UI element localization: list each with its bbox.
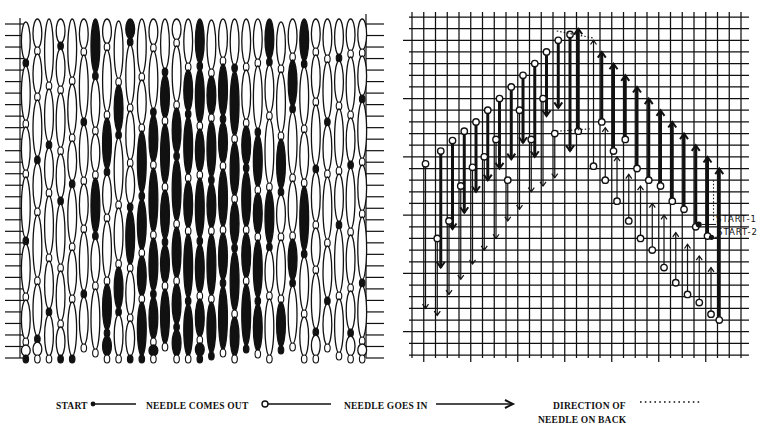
needle-out-circle-icon [681, 206, 687, 212]
stitch-knot [243, 345, 249, 353]
open-stitch [335, 228, 344, 293]
open-stitch [323, 62, 332, 119]
open-stitch [323, 177, 332, 240]
open-stitch [33, 215, 42, 278]
open-stitch [33, 342, 42, 356]
needle-out-circle-icon [422, 161, 428, 167]
open-stitch [277, 240, 286, 296]
open-stitch [335, 109, 344, 168]
stitch-ascending [673, 233, 679, 286]
open-stitch [300, 132, 309, 180]
stitch-descending [484, 107, 492, 180]
filled-stitch [230, 317, 239, 356]
open-stitch [149, 51, 158, 109]
filled-stitch [126, 19, 135, 39]
open-stitch [114, 208, 123, 261]
open-stitch [126, 321, 135, 356]
open-stitch [56, 204, 65, 265]
filled-stitch [253, 135, 262, 187]
open-stitch [265, 119, 274, 184]
open-stitch [242, 19, 251, 64]
filled-stitch [230, 202, 239, 245]
open-stitch [103, 175, 112, 215]
stitch-knot [220, 349, 226, 357]
open-stitch [126, 111, 135, 160]
filled-stitch [230, 71, 239, 136]
open-stitch [56, 327, 65, 356]
open-stitch [311, 335, 320, 356]
filled-stitch [184, 304, 193, 356]
open-stitch [253, 66, 262, 129]
filled-stitch [161, 245, 170, 283]
open-stitch [79, 19, 88, 49]
needle-out-circle-icon [610, 148, 616, 154]
stitch-ascending [602, 128, 608, 184]
open-stitch [358, 56, 367, 96]
filled-stitch [184, 70, 193, 111]
open-stitch [45, 315, 54, 356]
open-stitch [277, 195, 286, 234]
filled-stitch [242, 284, 251, 346]
stitch-knot [23, 355, 29, 363]
needle-out-circle-icon [657, 183, 663, 189]
legend-needle-in: NEEDLE GOES IN [344, 400, 428, 411]
stitch-knot [290, 343, 296, 351]
filled-stitch [219, 122, 228, 163]
open-stitch [346, 118, 355, 162]
open-stitch [311, 19, 320, 49]
filled-stitch [219, 169, 228, 227]
open-stitch [56, 19, 65, 43]
open-stitch [265, 250, 274, 293]
open-stitch [79, 184, 88, 226]
filled-stitch [172, 159, 181, 221]
open-stitch [103, 50, 112, 112]
open-stitch [21, 345, 30, 356]
open-stitch [103, 221, 112, 278]
filled-stitch [265, 190, 274, 244]
filled-stitch [172, 108, 181, 153]
open-stitch [288, 19, 297, 54]
needle-out-circle-icon [661, 264, 667, 270]
stitch-ascending [637, 186, 643, 242]
open-stitch [346, 336, 355, 356]
needle-back-path [557, 129, 590, 131]
needle-out-circle-icon [543, 49, 549, 55]
stitch-knot [58, 355, 64, 363]
stitch-knot [278, 346, 284, 354]
open-stitch [358, 344, 367, 356]
needle-out-circle-icon [614, 198, 620, 204]
open-stitch [68, 187, 77, 244]
open-stitch [265, 65, 274, 113]
open-stitch [161, 19, 170, 69]
needle-out-circle-icon [602, 177, 608, 183]
stitch-ascending [645, 99, 653, 184]
legend-start-label: START [56, 401, 88, 411]
needle-out-circle-icon [649, 247, 655, 253]
filled-stitch [288, 239, 297, 280]
needle-out-circle-icon [469, 164, 475, 170]
stitch-ascending [692, 145, 700, 230]
filled-stitch [161, 124, 170, 184]
legend-direction-label-2: NEEDLE ON BACK [538, 415, 626, 425]
filled-stitch [265, 19, 274, 59]
filled-stitch [149, 238, 158, 291]
legend-direction-label-1: DIRECTION OF [553, 401, 626, 411]
open-stitch [265, 299, 274, 356]
open-stitch [21, 300, 30, 339]
stitch-knot [232, 355, 238, 363]
open-stitch [300, 67, 309, 126]
start-2-dot-icon [709, 235, 714, 240]
open-stitch [33, 163, 42, 209]
open-stitch [323, 19, 332, 56]
stitch-knot [301, 355, 307, 363]
needle-out-circle-icon [669, 198, 675, 204]
filled-stitch [242, 171, 251, 227]
stitch-knot [197, 355, 203, 363]
needle-out-circle-icon [708, 311, 714, 317]
filled-stitch [300, 19, 309, 61]
stitch-ascending [696, 256, 702, 306]
filled-stitch [137, 131, 146, 193]
needle-out-circle-icon [434, 235, 440, 241]
open-stitch [335, 299, 344, 353]
filled-stitch [172, 227, 181, 278]
